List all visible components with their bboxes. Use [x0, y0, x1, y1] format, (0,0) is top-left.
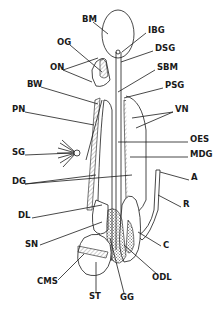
- label-dsg: DSG: [155, 43, 175, 53]
- label-dg: DG: [12, 176, 26, 186]
- label-st: ST: [89, 291, 101, 301]
- label-sn: SN: [25, 239, 38, 249]
- label-cms: CMS: [37, 276, 58, 286]
- label-r: R: [183, 199, 190, 209]
- label-a: A: [191, 172, 198, 182]
- label-on: ON: [50, 62, 64, 72]
- optic-ganglion-shape: [92, 58, 110, 86]
- label-sbm: SBM: [157, 62, 178, 72]
- label-oes: OES: [190, 134, 209, 144]
- label-bw: BW: [27, 79, 43, 89]
- label-psg: PSG: [165, 80, 184, 90]
- label-pn: PN: [12, 104, 25, 114]
- brain-mass-shape: [102, 10, 134, 58]
- label-mdg: MDG: [190, 149, 213, 159]
- label-gg: GG: [120, 292, 134, 302]
- label-vn: VN: [175, 104, 189, 114]
- label-dl: DL: [18, 210, 31, 220]
- label-sg: SG: [12, 147, 25, 157]
- anatomy-diagram: BM IBG OG DSG ON SBM BW PSG PN VN OES SG…: [0, 0, 224, 314]
- label-ibg: IBG: [148, 25, 165, 35]
- label-og: OG: [57, 37, 71, 47]
- label-odl: ODL: [152, 272, 172, 282]
- label-bm: BM: [82, 14, 97, 24]
- label-c: C: [163, 240, 169, 250]
